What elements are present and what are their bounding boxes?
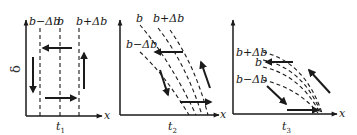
panel-t3: x b+Δb b b−Δb t3	[233, 20, 346, 135]
label-b: b	[255, 56, 262, 69]
x-axis-label: x	[339, 107, 346, 120]
label-b-plus: b+Δb	[76, 15, 107, 28]
y-axis-label: δ	[8, 65, 23, 73]
arrow-down-right-icon	[267, 86, 286, 104]
label-b-minus: b−Δb	[29, 15, 60, 28]
label-b-plus: b+Δb	[153, 12, 184, 25]
time-label-t1: t1	[56, 120, 65, 135]
time-label-t2: t2	[168, 120, 177, 135]
time-label-t3: t3	[282, 120, 291, 135]
arrow-up-left-icon	[201, 62, 210, 88]
panel-t1: x δ b−Δb b b+Δb t1	[8, 15, 111, 135]
label-b-plus: b+Δb	[236, 46, 267, 59]
label-b-minus: b−Δb	[126, 38, 157, 51]
x-axis-label: x	[104, 109, 111, 122]
label-b: b	[57, 15, 64, 28]
dashed-curve-mid	[263, 60, 321, 113]
label-b-minus: b−Δb	[236, 73, 267, 86]
x-axis-label: x	[220, 108, 227, 121]
label-b: b	[136, 12, 143, 25]
panel-t2: x b b+Δb b−Δb t2	[120, 12, 227, 135]
rollup-diagram: x δ b−Δb b b+Δb t1 x b b+Δb b−Δb t2	[0, 0, 357, 135]
arrow-down-right-icon	[160, 70, 168, 95]
